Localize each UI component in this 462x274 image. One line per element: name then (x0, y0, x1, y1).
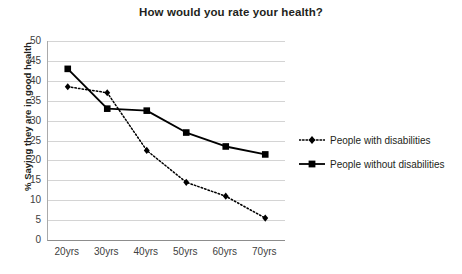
data-point-square-marker (262, 151, 269, 158)
chart-container: How would you rate your health? % Saying… (0, 0, 462, 274)
plot-area (47, 41, 285, 241)
x-axis-tick-label: 50yrs (173, 246, 197, 257)
y-axis-tick-label: 15 (0, 175, 41, 185)
y-axis-tick-label: 10 (0, 195, 41, 205)
data-point-square-marker (222, 143, 229, 150)
data-point-diamond-marker (65, 83, 71, 90)
y-axis-tick-label: 20 (0, 155, 41, 165)
data-point-square-marker (183, 129, 190, 136)
y-axis-tick-label: 35 (0, 96, 41, 106)
legend-item-with-disabilities: People with disabilities (299, 128, 459, 152)
data-point-square-marker (104, 105, 111, 112)
x-axis-tick-label: 20yrs (55, 246, 79, 257)
y-axis-tick-label: 0 (0, 235, 41, 245)
chart-legend: People with disabilities People without … (299, 128, 459, 176)
y-axis-tick-labels: 05101520253035404550 (0, 41, 41, 240)
y-axis-tick-label: 45 (0, 56, 41, 66)
gridline (48, 240, 285, 241)
series-line (68, 69, 266, 155)
x-axis-tick-label: 70yrs (252, 246, 276, 257)
legend-swatch-solid-square-icon (299, 157, 325, 171)
data-point-square-marker (143, 107, 150, 114)
legend-label: People without disabilities (330, 159, 445, 170)
series-layer (48, 41, 285, 240)
data-point-diamond-marker (183, 179, 189, 186)
data-point-square-marker (64, 66, 71, 73)
y-axis-tick-label: 25 (0, 136, 41, 146)
x-axis-tick-label: 30yrs (94, 246, 118, 257)
data-point-diamond-marker (223, 193, 229, 200)
legend-item-without-disabilities: People without disabilities (299, 152, 459, 176)
legend-swatch-dotted-diamond-icon (299, 133, 325, 147)
y-axis-tick-label: 5 (0, 215, 41, 225)
y-axis-tick-label: 40 (0, 76, 41, 86)
x-axis-tick-label: 40yrs (134, 246, 158, 257)
legend-label: People with disabilities (330, 135, 431, 146)
x-axis-tick-labels: 20yrs30yrs40yrs50yrs60yrs70yrs (47, 246, 284, 262)
chart-title: How would you rate your health? (0, 6, 462, 18)
x-axis-tick-label: 60yrs (213, 246, 237, 257)
y-axis-tick-label: 30 (0, 116, 41, 126)
data-point-diamond-marker (262, 215, 268, 222)
y-axis-tick-label: 50 (0, 36, 41, 46)
series-line (68, 87, 266, 218)
